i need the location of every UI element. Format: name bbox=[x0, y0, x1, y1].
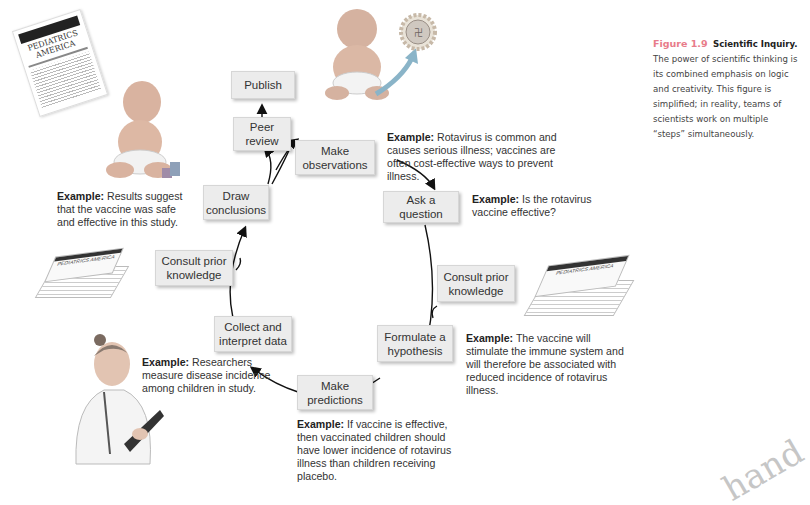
step-formulate-hypothesis: Formulate a hypothesis bbox=[377, 325, 453, 362]
baby-with-blocks-illustration bbox=[96, 78, 184, 186]
svg-text:卍: 卍 bbox=[414, 28, 423, 38]
example-label: Example: bbox=[297, 418, 344, 430]
example-label: Example: bbox=[57, 190, 104, 202]
example-conclusions: Example: Results suggest that the vaccin… bbox=[57, 190, 187, 229]
example-predictions: Example: If vaccine is effective, then v… bbox=[297, 418, 467, 483]
step-make-observations: Make observations bbox=[295, 140, 375, 175]
virus-illustration: 卍 bbox=[372, 8, 442, 98]
example-hypothesis: Example: The vaccine will stimulate the … bbox=[466, 332, 631, 397]
step-consult-prior-knowledge-right: Consult prior knowledge bbox=[437, 265, 515, 302]
journal-stack-left-illustration: PEDIATRICS AMERICA bbox=[44, 252, 120, 302]
step-publish: Publish bbox=[231, 71, 295, 99]
researcher-illustration bbox=[64, 334, 168, 468]
example-question: Example: Is the rotavirus vaccine effect… bbox=[472, 193, 602, 219]
step-ask-question: Ask a question bbox=[383, 191, 459, 223]
step-make-predictions: Make predictions bbox=[297, 375, 373, 410]
example-label: Example: bbox=[466, 332, 513, 344]
step-draw-conclusions: Draw conclusions bbox=[203, 185, 269, 220]
example-observations: Example: Rotavirus is common and causes … bbox=[387, 131, 577, 183]
example-label: Example: bbox=[472, 193, 519, 205]
step-consult-prior-knowledge-left: Consult prior knowledge bbox=[155, 250, 233, 286]
step-peer-review: Peer review bbox=[233, 117, 291, 151]
step-collect-interpret-data: Collect and interpret data bbox=[214, 316, 292, 352]
example-label: Example: bbox=[387, 131, 434, 143]
journal-stack-right-illustration: PEDIATRICS AMERICA bbox=[530, 258, 626, 320]
